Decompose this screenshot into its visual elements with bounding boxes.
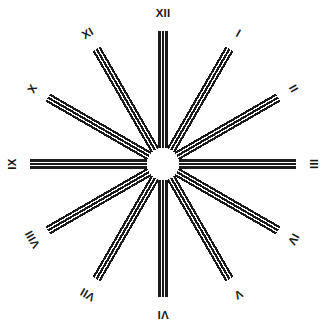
clock-dial-canvas: XIIIIIIIIIVVVIVIIVIIIIXXXI: [0, 0, 324, 328]
spoke-bar: [158, 180, 160, 297]
numeral-label-ix: IX: [6, 158, 18, 169]
spoke-bar: [30, 166, 147, 168]
spoke-bar: [30, 163, 147, 165]
spoke-bar: [179, 163, 296, 165]
spoke-bar: [162, 180, 164, 297]
radial-clock-diagram: XIIIIIIIIIVVVIVIIVIIIIXXXI: [0, 0, 324, 328]
spoke-ix: [30, 159, 147, 168]
spoke-bar: [165, 31, 167, 148]
numeral-label-xii: XII: [156, 7, 171, 19]
spoke-bar: [179, 159, 296, 161]
spoke-iii: [179, 159, 296, 168]
numeral-label-vi: VI: [157, 309, 168, 321]
spoke-bar: [158, 31, 160, 148]
spoke-bar: [162, 31, 164, 148]
numeral-label-iii: III: [308, 159, 320, 169]
spoke-xii: [158, 31, 167, 148]
spoke-bar: [179, 166, 296, 168]
spoke-bar: [165, 180, 167, 297]
spoke-bar: [30, 159, 147, 161]
spoke-vi: [158, 180, 167, 297]
center-hub: [149, 150, 177, 178]
